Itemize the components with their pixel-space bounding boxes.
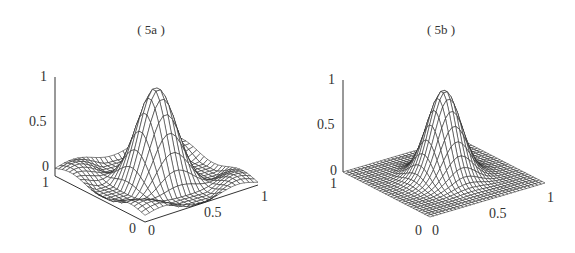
x-tick-0: 0 bbox=[148, 224, 155, 238]
y-tick-1: 1 bbox=[42, 176, 49, 190]
x-tick-0: 0 bbox=[432, 224, 439, 238]
z-tick-0.5: 0.5 bbox=[317, 118, 335, 132]
x-tick-1: 1 bbox=[261, 190, 268, 204]
x-tick-0.5: 0.5 bbox=[489, 207, 507, 221]
surface-plot-5a: ( 5a ) 1 0.5 0 1 0 0 0.5 1 bbox=[0, 0, 290, 253]
x-tick-1: 1 bbox=[547, 191, 554, 205]
z-tick-0.5: 0.5 bbox=[29, 115, 47, 129]
y-tick-1: 1 bbox=[330, 177, 337, 191]
z-tick-1: 1 bbox=[40, 70, 47, 84]
z-tick-1: 1 bbox=[328, 73, 335, 87]
y-tick-0: 0 bbox=[129, 222, 136, 236]
x-tick-0.5: 0.5 bbox=[204, 206, 222, 220]
z-tick-0: 0 bbox=[42, 160, 49, 174]
y-tick-0: 0 bbox=[415, 224, 422, 238]
surface-plot-5b: ( 5b ) 1 0.5 0 1 0 0 0.5 1 bbox=[285, 0, 575, 253]
